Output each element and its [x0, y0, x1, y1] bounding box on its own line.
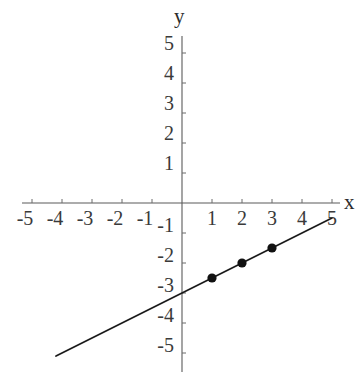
y-tick-label-3: 3 [148, 93, 174, 113]
cartesian-plot: -5 -4 -3 -2 -1 1 2 3 4 5 5 4 3 2 1 -1 -2… [0, 0, 362, 376]
y-tick-label-1: 1 [148, 153, 174, 173]
x-tick-label--4: -4 [38, 208, 72, 228]
y-tick-label--2: -2 [140, 245, 174, 265]
x-tick-label--2: -2 [98, 208, 132, 228]
x-tick-label-5: 5 [320, 208, 344, 228]
y-tick-label--1: -1 [140, 215, 174, 235]
x-tick-label-3: 3 [260, 208, 284, 228]
data-point [207, 273, 216, 282]
x-axis-title: x [344, 192, 355, 213]
x-tick-label-2: 2 [230, 208, 254, 228]
x-tick-label-1: 1 [200, 208, 224, 228]
y-tick-label--5: -5 [140, 335, 174, 355]
data-point [237, 258, 246, 267]
data-points-group [207, 243, 276, 282]
x-tick-label-4: 4 [290, 208, 314, 228]
y-tick-label--4: -4 [140, 305, 174, 325]
y-tick-label--3: -3 [140, 275, 174, 295]
trend-line [56, 218, 332, 356]
x-tick-label--5: -5 [8, 208, 42, 228]
y-tick-label-5: 5 [148, 33, 174, 53]
y-tick-label-2: 2 [148, 123, 174, 143]
plot-canvas [0, 0, 362, 376]
y-tick-label-4: 4 [148, 63, 174, 83]
data-point [267, 243, 276, 252]
axes-group [22, 36, 340, 372]
y-axis-title: y [174, 6, 185, 27]
data-series-group [56, 218, 332, 356]
x-tick-label--3: -3 [68, 208, 102, 228]
